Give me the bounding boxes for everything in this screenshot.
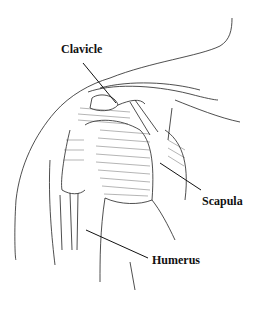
shoulder-drawing [0, 0, 259, 322]
scapula-label: Scapula [202, 194, 243, 209]
clavicle-leader-line [83, 63, 116, 103]
humerus-label: Humerus [152, 253, 200, 268]
humerus-leader-line [86, 230, 148, 258]
scapula-leader-line [160, 163, 201, 190]
clavicle-label: Clavicle [61, 42, 102, 57]
anatomy-illustration: Clavicle Scapula Humerus [0, 0, 259, 322]
